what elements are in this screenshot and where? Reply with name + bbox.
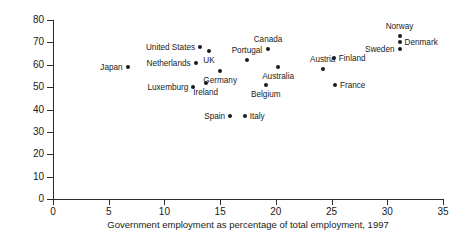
data-point bbox=[321, 67, 325, 71]
data-point-label: United States bbox=[146, 42, 195, 51]
data-point bbox=[194, 61, 198, 65]
y-tick-label: 30 bbox=[20, 127, 44, 137]
data-point bbox=[207, 49, 211, 53]
x-tick-mark bbox=[53, 199, 54, 205]
x-tick-label: 0 bbox=[41, 207, 65, 217]
y-tick-mark bbox=[47, 177, 53, 178]
data-point bbox=[266, 47, 270, 51]
x-tick-mark bbox=[109, 199, 110, 205]
data-point bbox=[243, 114, 247, 118]
y-tick-label: 60 bbox=[20, 60, 44, 70]
data-point-label: Belgium bbox=[251, 90, 281, 99]
data-point bbox=[398, 40, 402, 44]
y-tick-label: 20 bbox=[20, 149, 44, 159]
y-tick-label: 40 bbox=[20, 105, 44, 115]
y-tick-label: 70 bbox=[20, 37, 44, 47]
data-point-label: Denmark bbox=[405, 38, 438, 47]
x-tick-label: 20 bbox=[264, 207, 288, 217]
x-tick-mark bbox=[387, 199, 388, 205]
data-point-label: Spain bbox=[204, 112, 225, 121]
x-axis-line bbox=[53, 199, 444, 200]
x-tick-label: 25 bbox=[320, 207, 344, 217]
x-tick-label: 15 bbox=[208, 207, 232, 217]
data-point-label: Sweden bbox=[365, 45, 395, 54]
x-tick-label: 10 bbox=[152, 207, 176, 217]
x-tick-mark bbox=[332, 199, 333, 205]
y-tick-label: 80 bbox=[20, 15, 44, 25]
x-tick-mark bbox=[220, 199, 221, 205]
data-point bbox=[126, 65, 130, 69]
data-point bbox=[276, 65, 280, 69]
x-axis-title: Government employment as percentage of t… bbox=[53, 219, 443, 230]
data-point bbox=[218, 69, 222, 73]
y-tick-mark bbox=[47, 132, 53, 133]
data-point-label: Norway bbox=[386, 22, 414, 31]
data-point-label: Japan bbox=[100, 62, 122, 71]
data-point bbox=[198, 45, 202, 49]
y-tick-label: 10 bbox=[20, 172, 44, 182]
data-point bbox=[398, 34, 402, 38]
data-point bbox=[332, 56, 336, 60]
y-axis-line bbox=[53, 20, 54, 200]
data-point bbox=[398, 47, 402, 51]
y-tick-mark bbox=[47, 110, 53, 111]
x-tick-mark bbox=[164, 199, 165, 205]
x-tick-label: 5 bbox=[97, 207, 121, 217]
data-point-label: Finland bbox=[339, 54, 366, 63]
data-point-label: Netherlands bbox=[146, 58, 190, 67]
y-tick-label: 0 bbox=[20, 194, 44, 204]
y-tick-mark bbox=[47, 154, 53, 155]
data-point-label: Ireland bbox=[193, 88, 218, 97]
scatter-chart: Women's rates of employment, 1998 (%) Go… bbox=[0, 0, 469, 240]
x-tick-label: 30 bbox=[375, 207, 399, 217]
y-tick-mark bbox=[47, 20, 53, 21]
x-tick-mark bbox=[443, 199, 444, 205]
data-point-label: France bbox=[340, 80, 365, 89]
x-tick-label: 35 bbox=[431, 207, 455, 217]
data-point-label: Luxemburg bbox=[147, 83, 188, 92]
y-tick-label: 50 bbox=[20, 82, 44, 92]
data-point-label: Portugal bbox=[232, 46, 263, 55]
data-point-label: Italy bbox=[250, 112, 265, 121]
y-tick-mark bbox=[47, 87, 53, 88]
data-point-label: Australia bbox=[262, 72, 294, 81]
y-tick-mark bbox=[47, 65, 53, 66]
data-point bbox=[333, 83, 337, 87]
data-point-label: UK bbox=[203, 56, 214, 65]
data-point bbox=[228, 114, 232, 118]
data-point-label: Canada bbox=[254, 35, 283, 44]
x-tick-mark bbox=[276, 199, 277, 205]
data-point bbox=[245, 58, 249, 62]
data-point bbox=[264, 83, 268, 87]
data-point-label: Germany bbox=[203, 76, 237, 85]
y-tick-mark bbox=[47, 42, 53, 43]
